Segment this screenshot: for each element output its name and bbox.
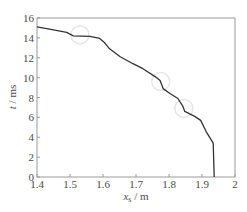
y-tick-label: 10 xyxy=(23,72,35,84)
x-ticks: 1.41.51.61.71.81.92 xyxy=(30,174,238,190)
highlight-circle xyxy=(71,26,89,44)
y-tick-label: 14 xyxy=(23,32,35,44)
y-tick-label: 2 xyxy=(29,151,35,163)
x-tick-label: 1.5 xyxy=(63,178,77,190)
y-tick-label: 4 xyxy=(29,131,35,143)
x-tick-label: 1.9 xyxy=(195,178,209,190)
y-tick-label: 12 xyxy=(23,52,34,64)
data-line xyxy=(37,27,214,177)
annotation-layer xyxy=(71,26,193,118)
y-tick-label: 0 xyxy=(29,171,35,183)
y-axis-title: t / ms xyxy=(6,85,18,109)
y-tick-label: 6 xyxy=(29,111,35,123)
y-tick-label: 16 xyxy=(23,12,35,24)
y-ticks: 0246810121416 xyxy=(23,12,40,183)
x-tick-label: 1.7 xyxy=(129,178,143,190)
x-tick-label: 1.6 xyxy=(96,178,110,190)
x-tick-label: 1.8 xyxy=(162,178,176,190)
y-tick-label: 8 xyxy=(29,92,35,104)
x-axis-title: xs / m xyxy=(122,190,149,204)
x-tick-label: 2 xyxy=(232,178,238,190)
plot-frame xyxy=(37,18,235,177)
chart: 1.41.51.61.71.81.92 0246810121416 xs / m… xyxy=(0,0,247,212)
